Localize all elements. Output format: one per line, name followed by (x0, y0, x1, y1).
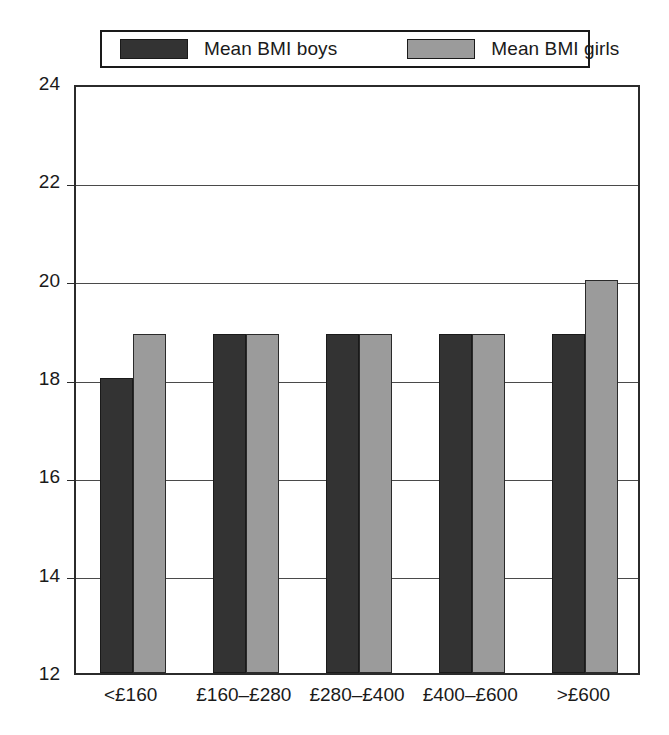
bar-girls-group-4 (472, 334, 505, 673)
bar-girls-group-1 (133, 334, 166, 673)
y-axis-label-12: 12 (20, 663, 60, 685)
y-tick-18 (67, 382, 76, 383)
legend-swatch-boys-icon (120, 39, 188, 59)
bar-girls-group-3 (359, 334, 392, 673)
legend-entry-girls: Mean BMI girls (407, 38, 619, 60)
y-axis-label-14: 14 (20, 565, 60, 587)
y-tick-20 (67, 283, 76, 284)
legend-label-boys: Mean BMI boys (204, 38, 337, 60)
y-axis-label-18: 18 (20, 368, 60, 390)
gridline-22 (76, 185, 638, 186)
bar-boys-group-3 (326, 334, 359, 673)
bar-boys-group-5 (552, 334, 585, 673)
y-axis-label-16: 16 (20, 466, 60, 488)
bmi-bar-chart: Mean BMI boys Mean BMI girls 12141618202… (0, 0, 669, 735)
x-axis-label-5: >£600 (557, 684, 610, 706)
plot-area (74, 85, 640, 675)
legend-entry-boys: Mean BMI boys (120, 38, 337, 60)
bar-boys-group-2 (213, 334, 246, 673)
y-tick-16 (67, 480, 76, 481)
legend-swatch-girls-icon (407, 39, 475, 59)
chart-legend: Mean BMI boys Mean BMI girls (100, 30, 590, 68)
y-axis-label-20: 20 (20, 270, 60, 292)
bar-boys-group-1 (100, 378, 133, 673)
legend-label-girls: Mean BMI girls (491, 38, 619, 60)
gridline-20 (76, 283, 638, 284)
x-axis-label-1: <£160 (104, 684, 157, 706)
plot-inner (76, 87, 638, 673)
y-tick-14 (67, 578, 76, 579)
bar-girls-group-2 (246, 334, 279, 673)
bar-girls-group-5 (585, 280, 618, 673)
bar-boys-group-4 (439, 334, 472, 673)
y-axis-label-24: 24 (20, 73, 60, 95)
x-axis-label-4: £400–£600 (423, 684, 518, 706)
y-axis-label-22: 22 (20, 171, 60, 193)
y-tick-22 (67, 185, 76, 186)
x-axis-label-2: £160–£280 (196, 684, 291, 706)
x-axis-label-3: £280–£400 (309, 684, 404, 706)
